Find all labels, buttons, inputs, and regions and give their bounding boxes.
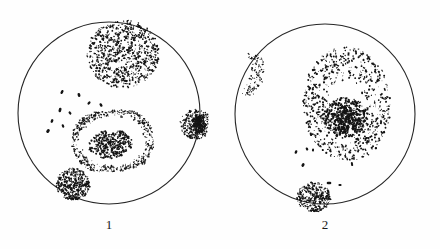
scattered-dash-mark xyxy=(87,101,91,105)
scattered-dash-mark xyxy=(305,147,308,151)
scattered-dash-mark xyxy=(327,182,332,185)
stipple-illustration xyxy=(0,0,440,249)
scattered-dash-mark xyxy=(60,90,64,95)
scattered-dash-mark xyxy=(77,93,81,98)
scattered-dash-mark xyxy=(338,184,341,186)
scattered-dash-mark xyxy=(68,111,72,115)
panel-caption-1: 1 xyxy=(94,218,124,231)
scattered-dash-mark xyxy=(58,108,62,113)
field-panel-2 xyxy=(235,24,415,213)
scattered-dash-mark xyxy=(351,162,354,166)
scattered-dash-mark xyxy=(294,150,297,154)
scattered-dash-mark xyxy=(50,119,54,123)
panel-caption-2: 2 xyxy=(310,218,340,231)
scattered-dash-mark xyxy=(99,103,103,107)
field-contents xyxy=(242,44,395,213)
stipple-patch-large-ringed-colony xyxy=(299,44,396,164)
field-panel-1 xyxy=(18,14,213,204)
field-outline-circle xyxy=(18,22,200,204)
scattered-dash-mark xyxy=(312,148,314,151)
field-contents xyxy=(46,14,214,203)
scattered-dash-mark xyxy=(61,124,64,128)
stipple-patch-left-edge-crescent xyxy=(242,54,269,99)
scattered-dash-mark xyxy=(46,128,51,133)
figure-container: 1 2 xyxy=(0,0,440,249)
scattered-dash-mark xyxy=(301,163,305,168)
panels-layer xyxy=(18,14,415,213)
stipple-patch-mid-ringed-blob xyxy=(69,106,156,176)
